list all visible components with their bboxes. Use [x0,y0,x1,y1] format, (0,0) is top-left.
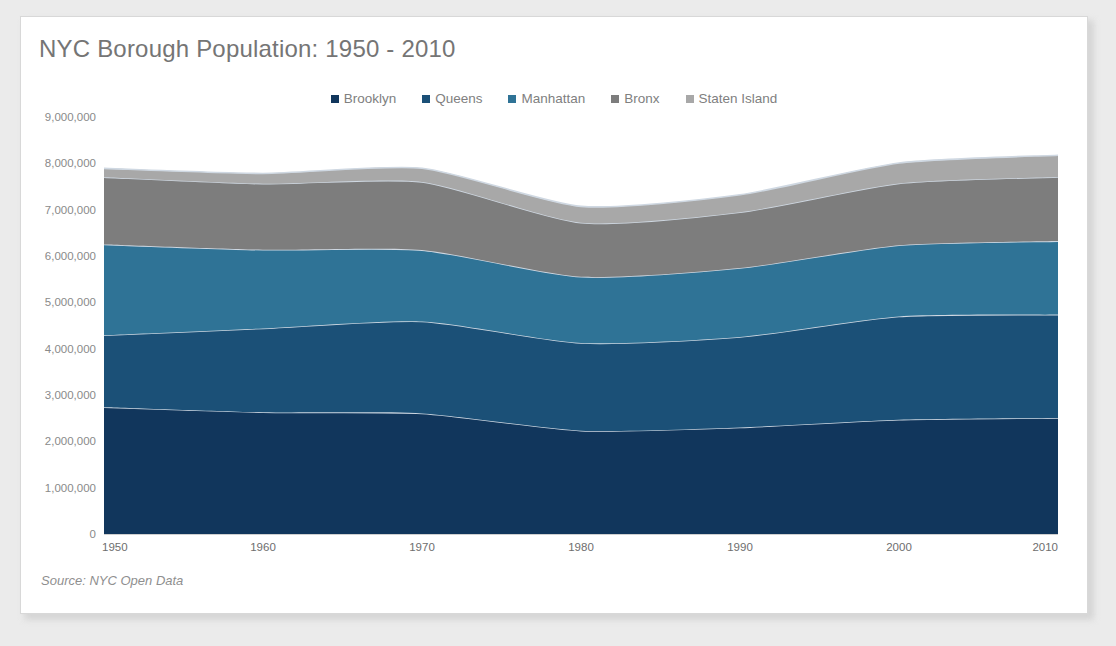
stacked-area-svg [104,117,1058,534]
y-axis-tick-label: 6,000,000 [24,250,96,262]
y-axis-tick-label: 8,000,000 [24,157,96,169]
x-axis-tick-label: 1950 [102,541,128,553]
y-axis-tick-label: 0 [24,528,96,540]
y-axis-tick-label: 1,000,000 [24,482,96,494]
x-axis-tick-label: 1980 [568,541,594,553]
chart-card: NYC Borough Population: 1950 - 2010 Broo… [20,16,1088,614]
source-note: Source: NYC Open Data [41,573,183,588]
x-axis-tick-label: 2010 [1032,541,1058,553]
y-axis-tick-label: 3,000,000 [24,389,96,401]
plot-area: 01,000,0002,000,0003,000,0004,000,0005,0… [21,17,1087,613]
x-axis-tick-label: 2000 [886,541,912,553]
y-axis-tick-label: 9,000,000 [24,111,96,123]
screenshot-root: NYC Borough Population: 1950 - 2010 Broo… [0,0,1116,646]
y-axis-tick-label: 4,000,000 [24,343,96,355]
x-axis-tick-label: 1990 [727,541,753,553]
x-axis-tick-label: 1970 [409,541,435,553]
y-axis-tick-label: 7,000,000 [24,204,96,216]
y-axis-tick-label: 5,000,000 [24,296,96,308]
y-axis-tick-label: 2,000,000 [24,435,96,447]
x-axis-line [104,534,1058,535]
x-axis-tick-label: 1960 [250,541,276,553]
